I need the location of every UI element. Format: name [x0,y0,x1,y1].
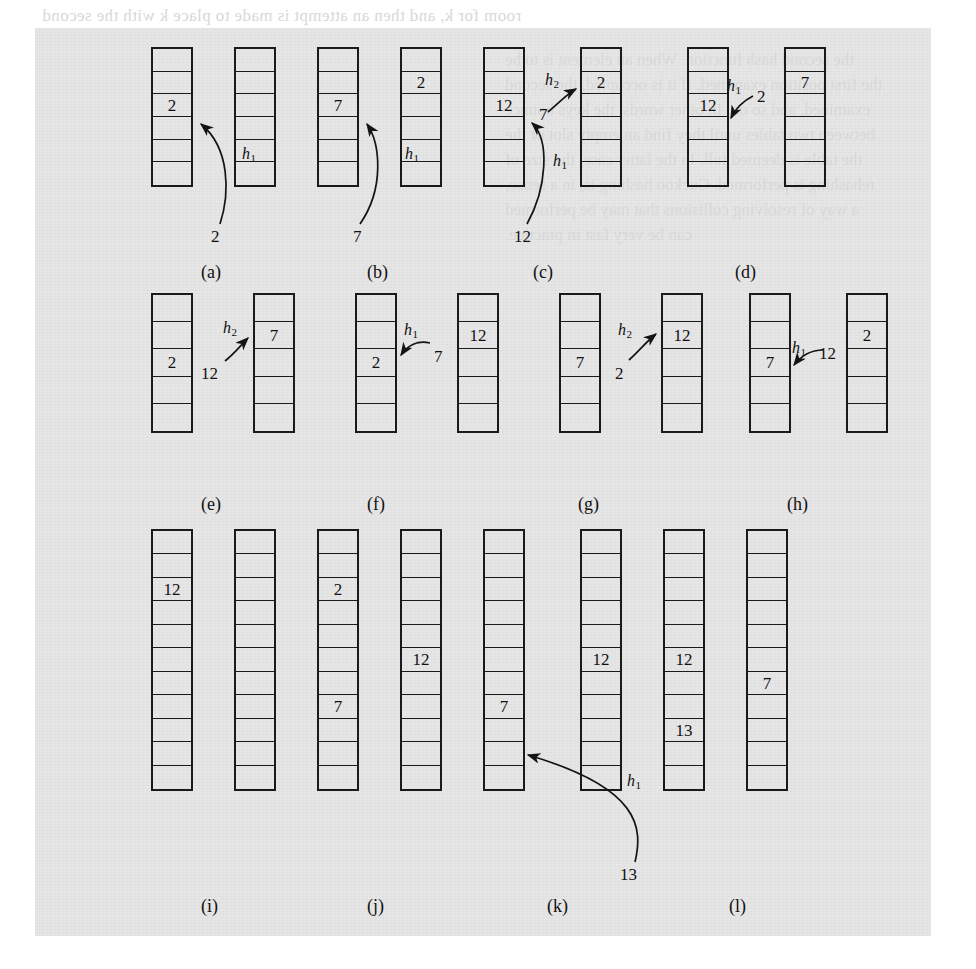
hash-table-cell-value: 12 [582,651,620,668]
hash-table-cell: 12 [485,94,523,117]
hash-h1-k-subscript: 1 [636,779,642,791]
hash-table-cell [319,742,357,765]
hash-table-cell [748,695,786,718]
hash-table-cell [153,162,191,185]
hash-table-cell-value: 7 [485,698,523,715]
hash-table-cell [402,601,440,624]
hash-table-cell: 7 [561,349,599,376]
hash-table-cell [665,766,703,789]
hash-table-cell [748,766,786,789]
hash-table-cell [402,531,440,554]
hash-table-cell [485,531,523,554]
hash-table-cell [153,117,191,140]
hash-table-cell [153,140,191,163]
hash-table-cell [236,162,274,185]
hash-table-cell [357,322,395,349]
hash-table-cell [459,377,497,404]
hash-table-cell [153,377,191,404]
hash-table-cell [153,719,191,742]
hash-table-e-t2: 7 [253,293,295,433]
hash-table-a-t1: 2 [151,47,193,187]
hash-table-cell [582,162,620,185]
hash-table-cell [689,72,727,95]
hash-table-cell [561,377,599,404]
hash-table-h-t2: 2 [846,293,888,433]
hash-table-cell: 7 [485,695,523,718]
hash-table-cell [485,117,523,140]
hash-table-cell: 7 [751,349,789,376]
hash-table-cell [153,695,191,718]
hash-h1-c: h1 [553,153,567,169]
hash-table-cell-value: 12 [665,651,703,668]
hash-table-k-t2: 12 [580,529,622,791]
hash-table-cell [663,404,701,431]
hash-table-cell [319,766,357,789]
hash-h1-f-subscript: 1 [413,328,419,340]
hash-table-e-t1: 2 [151,293,193,433]
hash-table-cell-value: 12 [402,651,440,668]
hash-table-cell [663,349,701,376]
hash-table-cell [561,295,599,322]
hash-table-i-t2 [234,529,276,791]
hash-table-cell [485,140,523,163]
hash-table-cell [561,404,599,431]
hash-table-cell-value: 2 [402,74,440,91]
hash-table-cell [748,531,786,554]
hash-table-cell [402,719,440,742]
hash-table-cell [582,117,620,140]
panel-label-k: (k) [547,896,568,917]
hash-table-cell [689,49,727,72]
hash-h2-g-subscript: 2 [627,328,633,340]
hash-table-cell [786,117,824,140]
hash-table-cell [402,49,440,72]
hash-table-cell [402,578,440,601]
arrow-f-h1 [401,342,430,355]
hash-table-cell: 12 [459,322,497,349]
hash-table-cell [485,49,523,72]
hash-table-cell [748,625,786,648]
hash-table-cell-value: 7 [319,698,357,715]
hash-table-cell-value: 2 [582,74,620,91]
hash-table-cell: 7 [748,672,786,695]
hash-table-cell [236,672,274,695]
hash-h1-b-subscript: 1 [414,152,420,164]
hash-table-cell [153,742,191,765]
hash-table-cell [319,49,357,72]
hash-table-cell-value: 2 [153,354,191,371]
hash-table-cell-value: 12 [153,581,191,598]
arrow-e-h2 [225,338,248,361]
hash-table-cell-value: 12 [459,327,497,344]
hash-table-cell [153,601,191,624]
hash-table-cell [561,322,599,349]
hash-h1-d-subscript: 1 [736,84,742,96]
hash-table-cell [459,295,497,322]
hash-table-cell [255,349,293,376]
hash-table-h-t1: 7 [749,293,791,433]
hash-table-cell [751,295,789,322]
hash-table-cell [236,117,274,140]
hash-table-g-t1: 7 [559,293,601,433]
hash-table-cell [848,295,886,322]
arrow-b-h1 [360,124,378,224]
hash-table-cell [582,695,620,718]
hash-table-i-t1: 12 [151,529,193,791]
hash-table-cell [665,672,703,695]
panel-label-l: (l) [729,896,746,917]
hash-table-cell [236,531,274,554]
bleed-line-8: can be very fast in practice. [505,225,692,245]
hash-table-g-t2: 12 [661,293,703,433]
hash-table-f-t1: 2 [355,293,397,433]
hash-table-cell [153,72,191,95]
hash-table-cell [319,531,357,554]
hash-table-cell [748,742,786,765]
hash-table-cell [402,554,440,577]
hash-h1-d: h1 [727,78,741,94]
hash-table-cell [255,295,293,322]
hash-table-cell [582,672,620,695]
hash-table-cell [357,404,395,431]
hash-table-cell [402,766,440,789]
hash-table-cell [319,672,357,695]
key-12-e: 12 [201,365,218,382]
panel-label-f: (f) [367,494,385,515]
bleed-text-top: room for k, and then an attempt is made … [42,6,521,26]
